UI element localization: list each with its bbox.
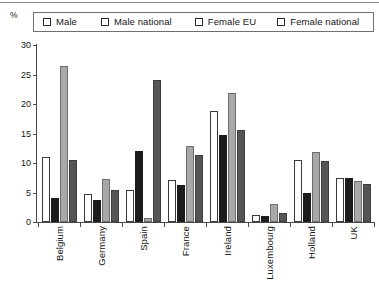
bar (345, 178, 353, 222)
bar (270, 204, 278, 222)
bar (93, 200, 101, 222)
top-divider (0, 2, 379, 3)
y-axis-tick: 20 (13, 99, 37, 109)
bar-group (332, 45, 374, 222)
bar-group (38, 45, 80, 222)
y-axis-tick-label: 0 (13, 217, 31, 227)
bar-groups (38, 45, 374, 222)
bar (60, 66, 68, 222)
bar (312, 152, 320, 222)
x-axis-label: France (180, 226, 191, 256)
y-axis-tick-label: 30 (13, 40, 31, 50)
legend-item-male: Male (43, 17, 77, 27)
x-axis-label-cell: Ireland (206, 224, 248, 286)
x-axis-label-cell: Germany (80, 224, 122, 286)
y-axis-tick: 15 (13, 129, 37, 139)
bar (177, 185, 185, 222)
bar (228, 93, 236, 222)
bar (261, 216, 269, 222)
bar-group (248, 45, 290, 222)
legend-swatch-female-national (277, 18, 285, 26)
bar (186, 146, 194, 222)
bar (51, 198, 59, 222)
y-axis-tick-label: 15 (13, 129, 31, 139)
bar (294, 160, 302, 222)
bar (279, 213, 287, 222)
y-axis-tick-mark (33, 104, 37, 105)
bar-group (80, 45, 122, 222)
bar (153, 80, 161, 222)
legend-label-male-national: Male national (114, 17, 172, 27)
y-axis-tick-mark (33, 163, 37, 164)
y-axis-tick-label: 10 (13, 158, 31, 168)
legend-item-female-national: Female national (277, 17, 359, 27)
x-axis-label-cell: Belgium (38, 224, 80, 286)
y-axis-tick-mark (33, 134, 37, 135)
x-axis-label-cell: Spain (122, 224, 164, 286)
bar (237, 130, 245, 222)
bar (168, 180, 176, 222)
y-axis-tick: 10 (13, 158, 37, 168)
legend-swatch-male (43, 18, 51, 26)
bar (210, 111, 218, 222)
x-axis-label: Holland (306, 226, 317, 259)
x-axis-label: Luxembourg (264, 226, 275, 280)
x-axis-label-cell: UK (332, 224, 374, 286)
bar (336, 178, 344, 222)
bar-group (206, 45, 248, 222)
x-axis-label: Germany (96, 226, 107, 266)
bar (135, 151, 143, 222)
y-axis-tick-mark (33, 222, 37, 223)
bar (303, 193, 311, 222)
y-axis-unit-label: % (10, 10, 18, 20)
chart-legend: Male Male national Female EU Female nati… (33, 12, 374, 32)
bar (363, 184, 371, 222)
legend-label-female-national: Female national (290, 17, 359, 27)
y-axis-tick-mark (33, 45, 37, 46)
x-axis-tick-mark (374, 222, 375, 227)
y-axis-tick: 0 (13, 217, 37, 227)
legend-label-female-eu: Female EU (208, 17, 256, 27)
bar (111, 190, 119, 222)
legend-item-male-national: Male national (101, 17, 172, 27)
x-axis-label: Ireland (222, 226, 233, 256)
y-axis-tick: 25 (13, 70, 37, 80)
bar-group (164, 45, 206, 222)
plot-area: 051015202530 (37, 45, 374, 222)
y-axis-tick-label: 20 (13, 99, 31, 109)
bar (195, 155, 203, 222)
bar-group (122, 45, 164, 222)
legend-item-female-eu: Female EU (195, 17, 256, 27)
x-axis-label: UK (348, 226, 359, 239)
y-axis-tick-label: 5 (13, 188, 31, 198)
x-axis-label-cell: Luxembourg (248, 224, 290, 286)
bar (354, 181, 362, 222)
bar (126, 190, 134, 222)
x-axis-label-cell: Holland (290, 224, 332, 286)
legend-label-male: Male (56, 17, 77, 27)
legend-swatch-female-eu (195, 18, 203, 26)
bar-group (290, 45, 332, 222)
bar (42, 157, 50, 222)
y-axis-tick: 30 (13, 40, 37, 50)
bar (144, 218, 152, 222)
y-axis-tick-mark (33, 193, 37, 194)
bar (102, 179, 110, 222)
bar (219, 135, 227, 222)
x-axis-label: Spain (138, 226, 149, 251)
y-axis-tick-label: 25 (13, 70, 31, 80)
bar-chart: % Male Male national Female EU Female na… (0, 0, 379, 287)
x-axis-label-cell: France (164, 224, 206, 286)
bar (252, 215, 260, 222)
y-axis-tick: 5 (13, 188, 37, 198)
bar (321, 161, 329, 222)
x-axis-label: Belgium (54, 226, 65, 261)
bar (84, 194, 92, 222)
legend-swatch-male-national (101, 18, 109, 26)
bar (69, 160, 77, 222)
y-axis-tick-mark (33, 75, 37, 76)
x-axis-labels: BelgiumGermanySpainFranceIrelandLuxembou… (38, 224, 374, 286)
x-axis-line (36, 222, 374, 223)
